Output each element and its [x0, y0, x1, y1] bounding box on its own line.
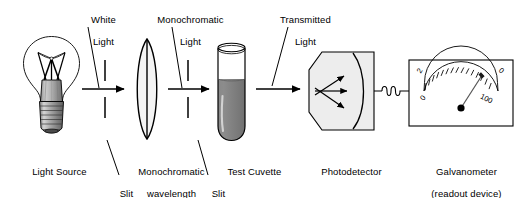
label-mws-line2: wavelength [147, 188, 196, 198]
label-transmitted-light-line2: Light [295, 36, 316, 47]
connecting-wire [374, 87, 409, 96]
label-light-source: Light Source [6, 155, 102, 188]
label-white-light-line1: White [91, 14, 116, 25]
label-test-cuvette-text: Test Cuvette [227, 166, 281, 177]
label-galvanometer-line1: Galvanometer [436, 166, 497, 177]
label-photodetector-text: Photodetector [321, 166, 381, 177]
photodetector-graphic [309, 52, 374, 130]
galvanometer-graphic [409, 46, 513, 126]
label-monochromatic-light-line1: Monochromatic [157, 14, 223, 25]
label-white-light: White Light [68, 3, 128, 58]
label-mws-line1: Monochromatic [138, 166, 204, 177]
label-photodetector: Photodetector [298, 155, 394, 188]
label-galvanometer: Galvanometer (readout device) [405, 155, 517, 198]
label-transmitted-light-line1: Transmitted [280, 14, 331, 25]
label-white-light-line2: Light [93, 36, 114, 47]
label-monochromatic-light-line2: Light [180, 36, 201, 47]
label-transmitted-light: Transmitted Light [250, 3, 350, 58]
label-galvanometer-line2: (readout device) [431, 188, 501, 198]
label-test-cuvette: Test Cuvette [203, 155, 295, 188]
label-slit-right-text: Slit [212, 188, 226, 198]
spectrophotometer-diagram: White Light Monochromatic Light Transmit… [0, 0, 523, 198]
label-light-source-text: Light Source [32, 166, 87, 177]
label-monochromatic-light: Monochromatic Light [130, 3, 240, 58]
test-cuvette-graphic [216, 43, 247, 143]
